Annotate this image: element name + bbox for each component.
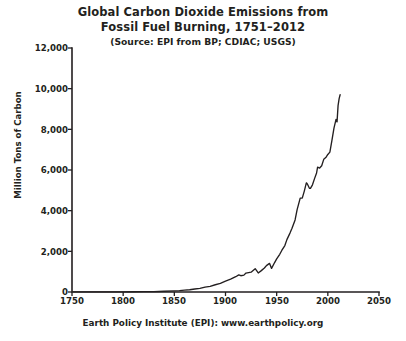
chart-figure: Global Carbon Dioxide Emissions from Fos… bbox=[0, 0, 406, 341]
emissions-line-series bbox=[73, 95, 340, 292]
chart-axes bbox=[72, 48, 379, 292]
chart-footer: Earth Policy Institute (EPI): www.earthp… bbox=[0, 318, 406, 328]
chart-plot-area bbox=[0, 0, 406, 341]
